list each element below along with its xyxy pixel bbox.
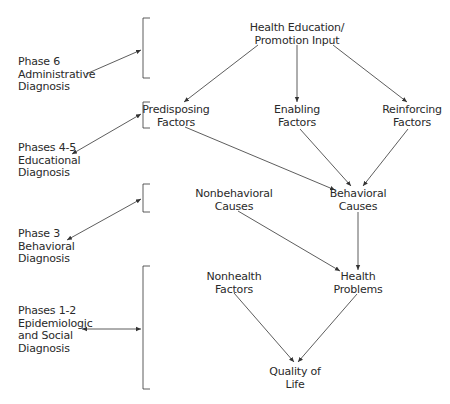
phase-label-line: Phases 4-5 <box>18 142 80 155</box>
arrow-phase3 <box>67 199 141 240</box>
bracket-phase3 <box>143 184 150 212</box>
node-label: Behavioral <box>330 188 387 201</box>
node-enabling-factors: Enabling Factors <box>274 104 320 129</box>
node-health-problems: Health Problems <box>333 271 382 296</box>
phase-label-line: Phase 6 <box>18 56 95 69</box>
node-predisposing-factors: Predisposing Factors <box>142 104 209 129</box>
node-behavioral-causes: Behavioral Causes <box>330 188 387 213</box>
node-label: Nonbehavioral <box>195 188 272 201</box>
node-quality-of-life: Quality of Life <box>269 366 320 391</box>
node-label: Enabling <box>274 104 320 117</box>
node-label: Life <box>269 379 320 392</box>
node-label: Factors <box>207 284 262 297</box>
phase-label-line: Diagnosis <box>18 253 75 266</box>
phase-label-line: Diagnosis <box>18 343 93 356</box>
node-label: Promotion Input <box>250 35 345 48</box>
phases-1-2-label: Phases 1-2 Epidemiologic and Social Diag… <box>18 305 93 355</box>
phases-4-5-label: Phases 4-5 Educational Diagnosis <box>18 142 80 180</box>
node-label: Factors <box>142 117 209 130</box>
node-reinforcing-factors: Reinforcing Factors <box>382 104 442 129</box>
node-nonhealth-factors: Nonhealth Factors <box>207 271 262 296</box>
phase-label-line: Diagnosis <box>18 81 95 94</box>
phase-label-line: Phase 3 <box>18 228 75 241</box>
node-label: Quality of <box>269 366 320 379</box>
node-nonbehavioral-causes: Nonbehavioral Causes <box>195 188 272 213</box>
phase-3-label: Phase 3 Behavioral Diagnosis <box>18 228 75 266</box>
node-health-education-input: Health Education/ Promotion Input <box>250 22 345 47</box>
arrow-phases4-5 <box>72 114 141 154</box>
node-label: Reinforcing <box>382 104 442 117</box>
node-label: Nonhealth <box>207 271 262 284</box>
node-label: Problems <box>333 284 382 297</box>
node-label: Causes <box>195 201 272 214</box>
phase-6-label: Phase 6 Administrative Diagnosis <box>18 56 95 94</box>
phase-label-line: Diagnosis <box>18 167 80 180</box>
node-label: Causes <box>330 201 387 214</box>
node-label: Health Education/ <box>250 22 345 35</box>
node-label: Factors <box>382 117 442 130</box>
node-label: Health <box>333 271 382 284</box>
node-label: Predisposing <box>142 104 209 117</box>
phase-label-line: Phases 1-2 <box>18 305 93 318</box>
bracket-phase6 <box>143 18 150 78</box>
bracket-phases1-2 <box>143 266 150 389</box>
phase-label-line: and Social <box>18 330 93 343</box>
node-label: Factors <box>274 117 320 130</box>
